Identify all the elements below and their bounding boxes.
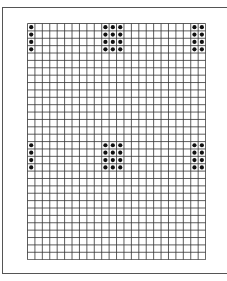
grid-dot [200,158,204,162]
grid-dot [103,151,107,155]
grid-dot [192,25,196,29]
grid-dot [200,47,204,51]
grid-dot [200,165,204,169]
grid-dot [118,158,122,162]
grid-dot [192,32,196,36]
grid-dot [192,165,196,169]
grid-dot [200,151,204,155]
grid-dot [29,40,33,44]
grid-dot [29,151,33,155]
grid-dot [29,32,33,36]
grid-dot [29,143,33,147]
grid-dot [118,40,122,44]
grid-dot [111,40,115,44]
grid-dot [192,143,196,147]
grid-dot [103,165,107,169]
grid-dot [192,158,196,162]
grid-dot [103,158,107,162]
grid-dot [29,158,33,162]
grid-dot [192,47,196,51]
grid-dot [200,40,204,44]
grid-dot [118,143,122,147]
grid-dot [111,151,115,155]
grid-dot [111,32,115,36]
grid-dot [103,40,107,44]
grid-dot [103,47,107,51]
grid-dot [111,165,115,169]
grid-dot [192,40,196,44]
grid-dot [103,32,107,36]
grid-dot [118,165,122,169]
grid-dot [111,47,115,51]
grid-dot [111,25,115,29]
grid-dot [200,143,204,147]
grid-dot [29,47,33,51]
grid-dot [200,32,204,36]
grid-diagram [27,23,206,260]
grid-dot [200,25,204,29]
grid-dot [103,143,107,147]
grid-dot [118,47,122,51]
grid-dot [118,25,122,29]
grid-dot [111,158,115,162]
grid-dot [118,151,122,155]
dot-grid [27,23,206,260]
grid-dot [29,165,33,169]
grid-dot [118,32,122,36]
grid-dot [111,143,115,147]
grid-dot [192,151,196,155]
grid-dot [29,25,33,29]
grid-dot [103,25,107,29]
